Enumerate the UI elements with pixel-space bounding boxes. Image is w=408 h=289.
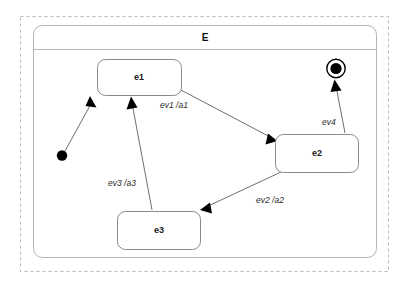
transition-label-ev3: ev3 /a3 bbox=[108, 178, 136, 188]
transition-label-ev1: ev1 /a1 bbox=[160, 100, 188, 110]
state-diagram-canvas: E ev1 /a1 ev2 /a2 ev3 /a3 bbox=[0, 0, 408, 289]
state-machine-diagram: E ev1 /a1 ev2 /a2 ev3 /a3 bbox=[0, 0, 408, 289]
final-state-core bbox=[330, 63, 341, 74]
state-e3[interactable]: e3 bbox=[118, 212, 201, 250]
state-e1[interactable]: e1 bbox=[98, 60, 182, 96]
transition-label-ev4: ev4 bbox=[322, 117, 336, 127]
state-label-e3: e3 bbox=[154, 225, 164, 235]
state-label-e2: e2 bbox=[312, 148, 322, 158]
transition-label-ev2: ev2 /a2 bbox=[256, 195, 284, 205]
initial-state-icon[interactable] bbox=[57, 150, 67, 160]
final-state-icon[interactable] bbox=[327, 59, 345, 77]
state-label-e1: e1 bbox=[134, 72, 144, 82]
region-title-label: E bbox=[202, 32, 209, 43]
state-e2[interactable]: e2 bbox=[276, 135, 359, 173]
